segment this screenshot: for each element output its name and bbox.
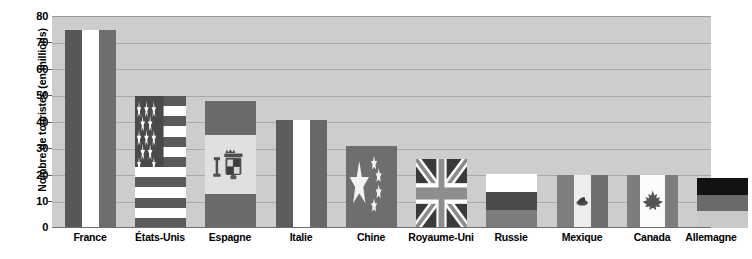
flag-united-states <box>135 96 186 228</box>
flag-united-kingdom <box>416 159 467 228</box>
gridline-70 <box>52 43 711 44</box>
gridline-60 <box>52 69 711 70</box>
flag-canada <box>627 175 678 228</box>
plot-area <box>52 16 711 228</box>
y-tick-30: 30 <box>22 142 48 154</box>
y-tick-40: 40 <box>22 116 48 128</box>
flag-italy <box>276 120 327 228</box>
bar-etats-unis[interactable] <box>135 96 186 228</box>
bar-mexique[interactable] <box>557 175 608 228</box>
y-axis-tick-labels: 80 70 60 50 40 30 20 10 0 <box>20 0 48 259</box>
y-tick-70: 70 <box>22 36 48 48</box>
y-tick-20: 20 <box>22 169 48 181</box>
bar-chine[interactable] <box>346 146 397 228</box>
x-axis-baseline <box>52 227 711 229</box>
bar-royaume-uni[interactable] <box>416 159 467 228</box>
flag-russia <box>486 174 537 228</box>
flag-mexico <box>557 175 608 228</box>
flag-france <box>65 30 116 228</box>
y-tick-80: 80 <box>22 10 48 22</box>
bar-allemagne[interactable] <box>697 178 748 228</box>
y-tick-60: 60 <box>22 63 48 75</box>
y-tick-50: 50 <box>22 89 48 101</box>
x-label-allemagne: Allemagne <box>661 231 752 243</box>
bar-espagne[interactable] <box>205 101 256 228</box>
y-tick-10: 10 <box>22 195 48 207</box>
bar-france[interactable] <box>65 30 116 228</box>
flag-china <box>346 146 397 228</box>
flag-germany <box>697 178 748 228</box>
bar-canada[interactable] <box>627 175 678 228</box>
flag-spain <box>205 101 256 228</box>
x-axis-category-labels: France États-Unis Espagne Italie Chine R… <box>0 231 711 259</box>
bar-russie[interactable] <box>486 174 537 228</box>
bar-italie[interactable] <box>276 120 327 228</box>
